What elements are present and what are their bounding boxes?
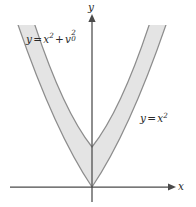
y-axis-arrowhead-icon <box>88 14 95 22</box>
y-axis-label: y <box>88 2 94 13</box>
inner-label-equals: = <box>32 33 43 45</box>
x-axis-arrowhead-icon <box>168 183 176 190</box>
inner-label-plus: + <box>54 33 65 45</box>
outer-curve-equation-label: y=x2 <box>140 113 168 124</box>
inner-label-second-subscript: 0 <box>71 35 76 42</box>
outer-label-equals: = <box>146 112 157 124</box>
inner-label-subsup-stack: 20 <box>71 32 76 43</box>
outer-label-exponent: 2 <box>163 111 168 120</box>
inner-curve-equation-label: y=x2+v20 <box>26 32 76 44</box>
x-axis-label: x <box>178 181 184 192</box>
math-figure: y=x2+v20 y=x2 y x <box>0 0 196 207</box>
